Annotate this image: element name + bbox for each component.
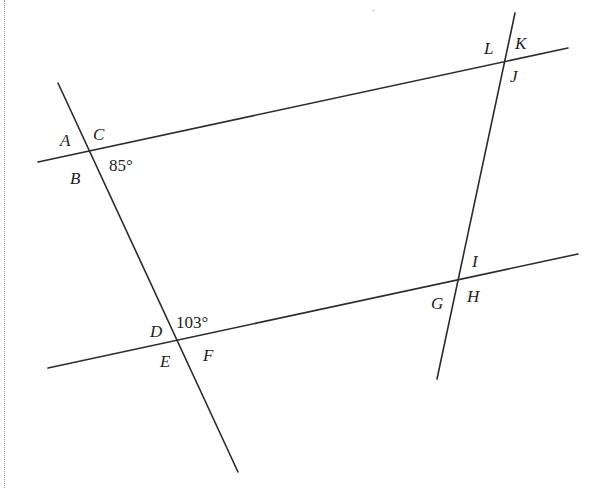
label-H: H [467,288,479,305]
label-K: K [515,35,526,52]
label-C: C [93,126,104,143]
left-line [58,83,238,472]
label-A: A [60,132,70,149]
label-E: E [160,353,170,370]
label-F: F [203,347,213,364]
label-B: B [70,170,80,187]
geometry-diagram: A C B 85° D 103° E F I H G L K J [0,0,602,488]
top-transversal-line [38,48,568,162]
label-G: G [431,295,443,312]
bottom-transversal-line [48,254,578,368]
angle-103: 103° [176,314,208,331]
angle-85: 85° [109,157,133,174]
label-D: D [150,323,162,340]
label-J: J [510,68,518,85]
label-L: L [484,40,493,57]
label-I: I [472,253,478,270]
